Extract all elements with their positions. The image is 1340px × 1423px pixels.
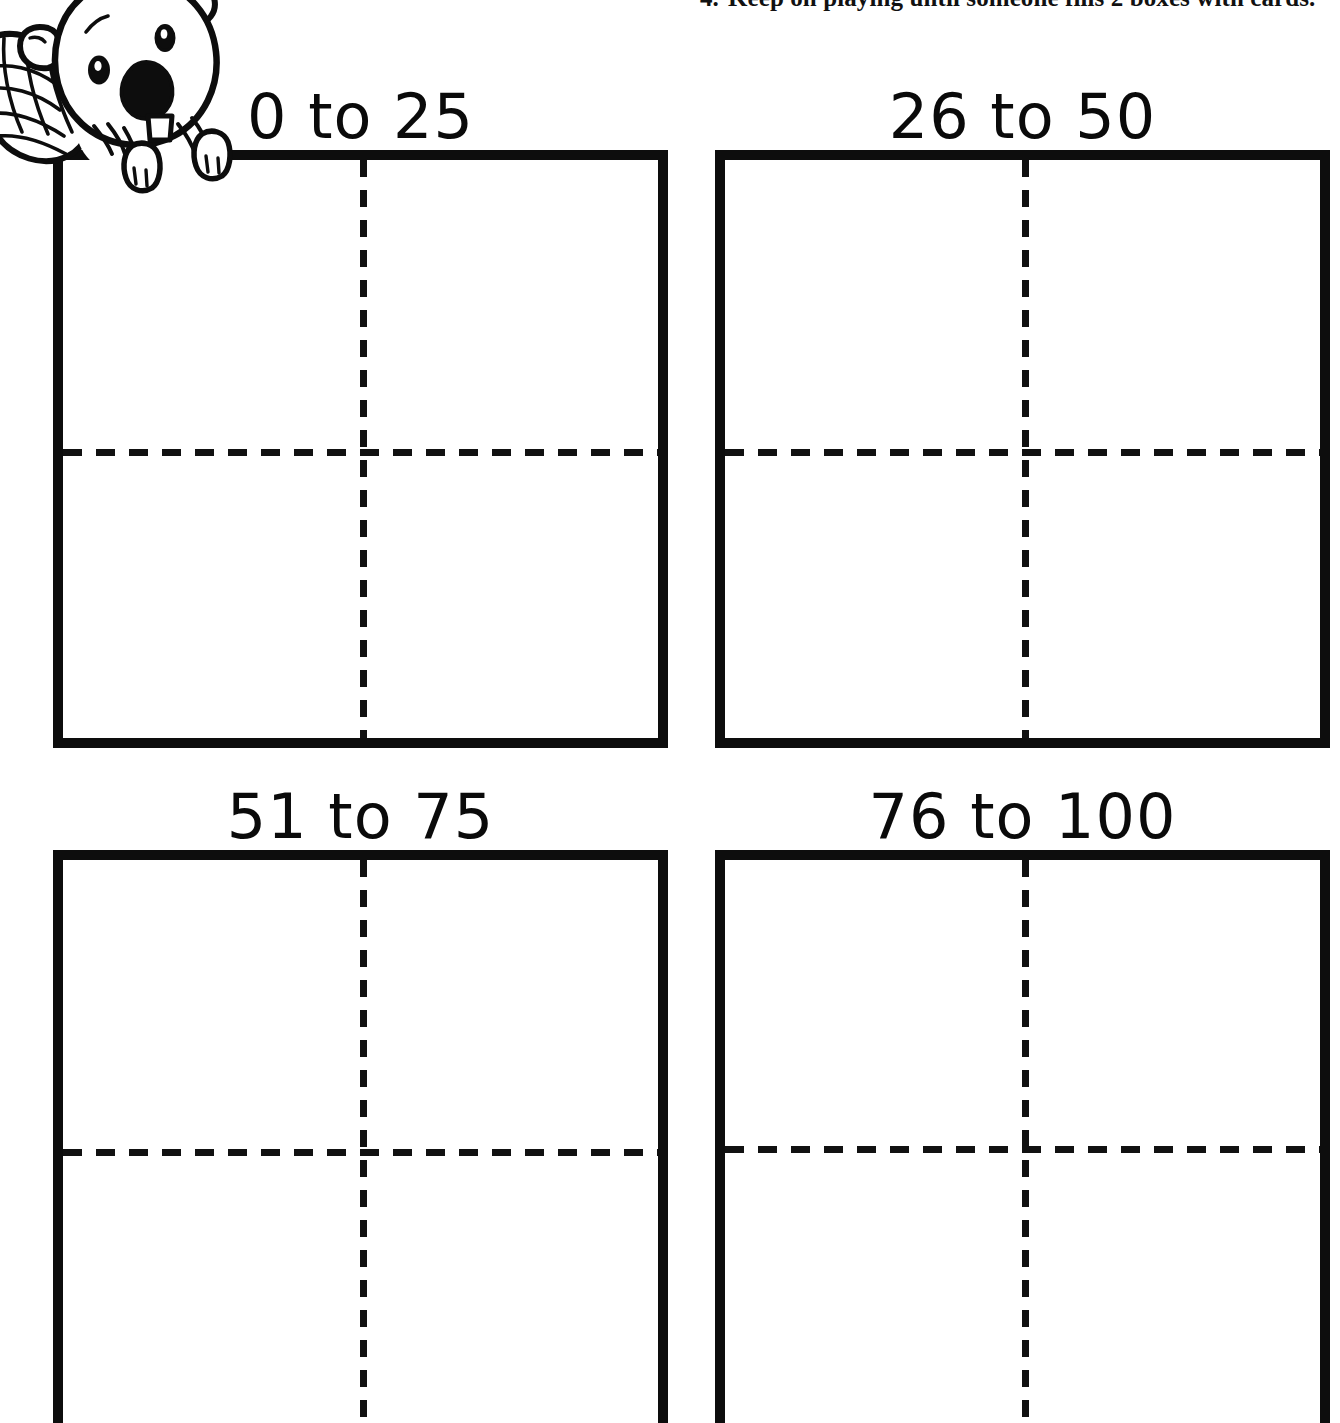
box-divider-horizontal-51-75 xyxy=(63,1149,658,1156)
box-divider-horizontal-76-100 xyxy=(725,1146,1320,1153)
box-heading-76-100: 76 to 100 xyxy=(715,786,1330,848)
worksheet-box-0-25: 0 to 25 xyxy=(53,86,668,748)
beaver-eye-left xyxy=(90,57,109,83)
instruction-text-wrapper: 4.Keep on playing until someone fills 2 … xyxy=(700,0,1315,12)
beaver-eye-right-highlight xyxy=(161,29,168,39)
box-frame-76-100[interactable] xyxy=(715,850,1330,1423)
beaver-eye-right xyxy=(156,26,174,51)
beaver-ear-left-inner xyxy=(30,37,45,42)
box-divider-horizontal-26-50 xyxy=(725,449,1320,456)
box-heading-26-50: 26 to 50 xyxy=(715,86,1330,148)
worksheet-box-76-100: 76 to 100 xyxy=(715,786,1330,1423)
worksheet-box-26-50: 26 to 50 xyxy=(715,86,1330,748)
beaver-head-fur-tick xyxy=(86,16,108,32)
box-frame-0-25[interactable] xyxy=(53,150,668,748)
instruction-body: Keep on playing until someone fills 2 bo… xyxy=(728,0,1316,11)
box-heading-0-25: 0 to 25 xyxy=(53,86,668,148)
box-divider-horizontal-0-25 xyxy=(63,449,658,456)
box-frame-26-50[interactable] xyxy=(715,150,1330,748)
box-frame-51-75[interactable] xyxy=(53,850,668,1423)
beaver-eye-left-highlight xyxy=(94,61,101,71)
box-divider-vertical-51-75 xyxy=(360,860,367,1423)
box-divider-vertical-76-100 xyxy=(1022,860,1029,1423)
instruction-line: 4.Keep on playing until someone fills 2 … xyxy=(0,0,1340,18)
instruction-number: 4. xyxy=(700,0,719,12)
box-heading-51-75: 51 to 75 xyxy=(53,786,668,848)
beaver-ear-left xyxy=(20,27,61,68)
worksheet-box-51-75: 51 to 75 xyxy=(53,786,668,1423)
